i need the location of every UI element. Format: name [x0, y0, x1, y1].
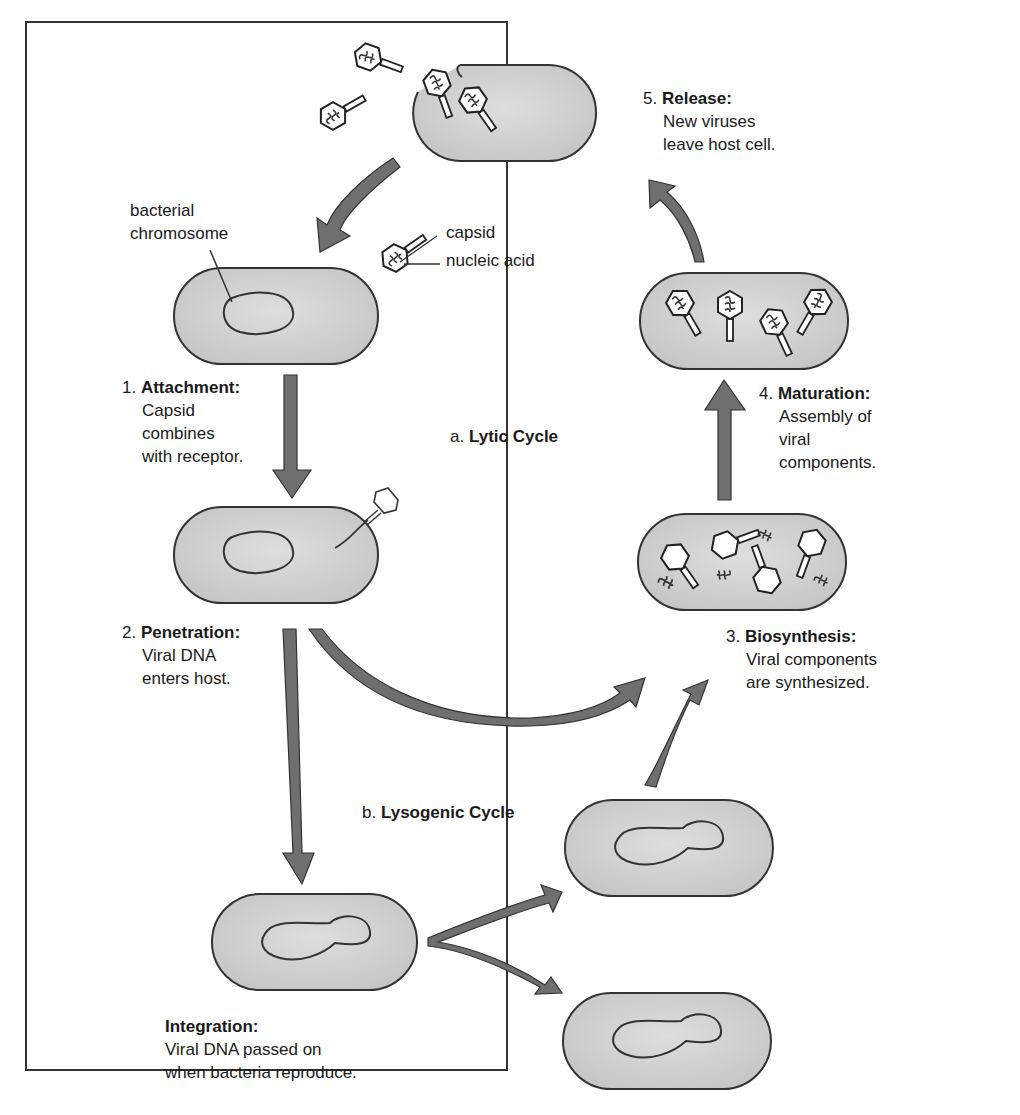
- arrow-lysogenic-to-biosynthesis: [645, 680, 708, 787]
- step-penetration-label: 2. Penetration: Viral DNA enters host.: [122, 621, 240, 690]
- arrow-maturation-to-release: [649, 180, 704, 262]
- step-release-label: 5. Release: New viruses leave host cell.: [643, 87, 775, 156]
- nucleic-acid-label: nucleic acid: [446, 249, 535, 272]
- free-phage: [351, 41, 406, 81]
- integration-cell: [212, 894, 417, 990]
- viral-replication-diagram: [0, 0, 1020, 1115]
- arrow-integration-to-daughters: [428, 885, 562, 994]
- arrow-penetration-to-integration: [283, 629, 314, 884]
- arrow-penetration-to-biosynthesis: [309, 629, 645, 726]
- lysogenic-cycle-title: b. Lysogenic Cycle: [362, 801, 514, 824]
- free-phage: [315, 88, 370, 134]
- capsid-label: capsid: [446, 221, 495, 244]
- penetration-cell: [174, 488, 398, 603]
- step-attachment-label: 1. Attachment: Capsid combines with rece…: [122, 376, 243, 468]
- lytic-cycle-title: a. Lytic Cycle: [450, 425, 558, 448]
- arrow-attachment-to-penetration: [273, 375, 311, 498]
- daughter-cell-bottom: [563, 993, 771, 1089]
- arrow-biosynthesis-to-maturation: [705, 380, 745, 500]
- daughter-cell-top: [565, 800, 773, 896]
- attachment-cell: [174, 250, 378, 364]
- bacterial-chromosome-label: bacterial chromosome: [130, 199, 228, 245]
- step-biosynthesis-label: 3. Biosynthesis: Viral components are sy…: [726, 625, 877, 694]
- attached-phage: [377, 228, 432, 276]
- integration-label: Integration: Viral DNA passed on when ba…: [165, 1015, 357, 1084]
- arrow-release-to-attachment: [317, 158, 400, 252]
- maturation-cell: [640, 273, 848, 369]
- step-maturation-label: 4. Maturation: Assembly of viral compone…: [759, 382, 876, 474]
